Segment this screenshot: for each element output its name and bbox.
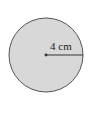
radius-label: 4 cm xyxy=(50,40,72,52)
center-point xyxy=(45,54,48,57)
circle-diagram: 4 cm xyxy=(0,0,93,117)
